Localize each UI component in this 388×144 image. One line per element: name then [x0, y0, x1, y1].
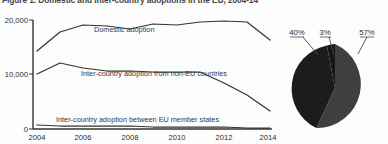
- x-axis-label-2012: 2012: [216, 133, 233, 142]
- series-line-intra-eu-intercountry: [37, 125, 270, 128]
- pie-label-57: 57%: [359, 28, 375, 37]
- x-axis-label-2004: 2004: [29, 133, 46, 142]
- series-label-non-eu-intercountry: Inter-country adoption from non-EU count…: [81, 69, 227, 78]
- y-axis-label-10000: 10,000: [5, 70, 28, 79]
- figure-root: Figure 1. Domestic and inter-country ado…: [0, 0, 388, 144]
- pie-leader-line-40: [303, 37, 318, 55]
- series-label-intra-eu-intercountry: Inter-country adoption between EU member…: [56, 115, 219, 124]
- x-axis-label-2014: 2014: [260, 133, 277, 142]
- pie-label-40: 40%: [289, 28, 305, 37]
- pie-label-3: 3%: [319, 28, 330, 37]
- line-chart-svg: 20,000 10,000 0 2004 2006 2008 2010 2012…: [0, 12, 280, 144]
- x-axis-label-2008: 2008: [122, 133, 139, 142]
- pie-chart-panel: 40% 3% 57%: [282, 16, 388, 144]
- pie-leader-line-57: [358, 37, 367, 54]
- x-axis-label-2006: 2006: [75, 133, 92, 142]
- y-axis-label-20000: 20,000: [5, 16, 28, 25]
- figure-title: Figure 1. Domestic and inter-country ado…: [2, 0, 386, 5]
- x-axis-label-2010: 2010: [169, 133, 186, 142]
- series-label-domestic-adoption: Domestic adoption: [94, 25, 154, 34]
- line-chart-panel: 20,000 10,000 0 2004 2006 2008 2010 2012…: [0, 12, 280, 144]
- y-axis-label-0: 0: [24, 125, 28, 134]
- pie-chart-svg: 40% 3% 57%: [282, 16, 388, 144]
